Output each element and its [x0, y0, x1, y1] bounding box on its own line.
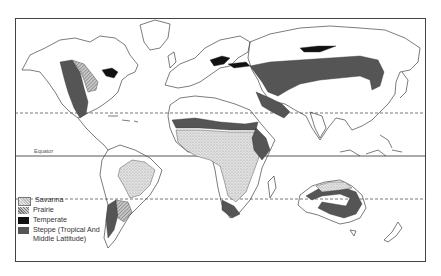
legend-label-steppe-line2: Middle Lattitude) [33, 235, 100, 244]
savanna-swatch [18, 197, 31, 206]
caribbean-outline [108, 116, 138, 122]
sa-savanna-region [118, 160, 155, 198]
legend-label-savanna: Savanna [35, 196, 63, 205]
europe-outline [165, 36, 250, 88]
greenland-outline [140, 20, 170, 50]
legend-label-temperate: Temperate [33, 216, 67, 225]
eurasia-steppe-region [250, 56, 384, 96]
se-asia-islands-outline [340, 135, 402, 156]
sa-steppe-region [106, 200, 118, 238]
africa-south-steppe-region [222, 200, 240, 218]
equator-label: Equator [34, 148, 53, 154]
na-temperate-region [102, 68, 118, 78]
steppe-swatch [18, 227, 29, 234]
middle-east-steppe-region [256, 92, 290, 118]
temperate-swatch [18, 217, 29, 224]
legend-item-steppe: Steppe (Tropical And Middle Lattitude) [18, 226, 100, 243]
europe-temperate-region [210, 56, 230, 66]
sa-prairie-region [116, 200, 132, 222]
biome-regions [60, 46, 384, 238]
central-america-outline [78, 118, 108, 150]
prairie-swatch [18, 207, 29, 214]
africa-north-steppe-band [172, 118, 258, 130]
legend-label-prairie: Prairie [33, 206, 54, 215]
tasmania-outline [350, 230, 356, 236]
madagascar-outline [268, 176, 276, 198]
map-legend: Savanna Prairie Temperate Steppe (Tropic… [18, 196, 100, 243]
legend-item-savanna: Savanna [18, 196, 100, 206]
japan-outline [400, 72, 408, 98]
europe-temperate-region-2 [228, 62, 250, 68]
uk-outline [168, 52, 176, 68]
asia-temperate-band [300, 46, 336, 52]
new-zealand-outline [384, 222, 402, 242]
